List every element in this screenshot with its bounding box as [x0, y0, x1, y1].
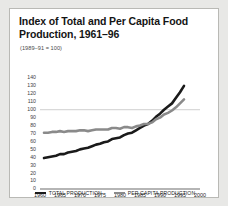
y-axis-tick-label: 130	[20, 83, 36, 88]
y-axis-tick-label: 30	[20, 163, 36, 168]
chart-svg	[10, 9, 220, 199]
y-axis-tick-label: 10	[20, 178, 36, 183]
y-axis-tick-label: 140	[20, 75, 36, 80]
y-axis-tick-label: 60	[20, 139, 36, 144]
y-axis-tick-label: 90	[20, 115, 36, 120]
legend-item-per-capita-production: PER CAPITA PRODUCTION	[114, 190, 195, 196]
y-axis-tick-label: 80	[20, 123, 36, 128]
legend-label-per-capita-production: PER CAPITA PRODUCTION	[128, 190, 195, 196]
plot-area: 1401301201101009080706050403020100196019…	[10, 9, 220, 199]
legend-label-total-production: TOTAL PRODUCTION	[49, 190, 102, 196]
y-axis-tick-label: 100	[20, 107, 36, 112]
y-axis-tick-label: 40	[20, 155, 36, 160]
legend-item-total-production: TOTAL PRODUCTION	[35, 190, 102, 196]
y-axis-tick-label: 50	[20, 147, 36, 152]
y-axis-tick-label: 120	[20, 91, 36, 96]
y-axis-tick-label: 20	[20, 171, 36, 176]
y-axis-tick-label: 110	[20, 99, 36, 104]
chart-card: Index of Total and Per Capita Food Produ…	[9, 8, 219, 198]
series-line-total-production	[44, 86, 184, 158]
y-axis-tick-label: 70	[20, 131, 36, 136]
legend-swatch-per-capita-production	[114, 192, 125, 195]
legend-swatch-total-production	[35, 192, 46, 195]
series-line-per-capita-production	[44, 99, 184, 132]
chart-legend: TOTAL PRODUCTION PER CAPITA PRODUCTION	[10, 190, 220, 196]
